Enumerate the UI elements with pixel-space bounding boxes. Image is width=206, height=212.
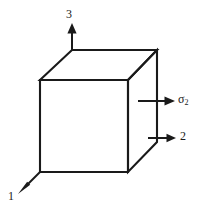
axis-1-arrowhead	[18, 182, 30, 194]
axis-3-label: 3	[66, 8, 72, 20]
axis-2-label: 2	[180, 130, 186, 142]
axis-sigma-2-label: σ2	[178, 93, 188, 105]
axis-1-arrow	[18, 172, 40, 194]
sigma-subscript: 2	[184, 98, 188, 107]
stress-cube-diagram: 3 1 2 σ2	[0, 0, 206, 212]
axis-3-arrow	[67, 23, 76, 50]
axis-2-arrowhead	[167, 134, 177, 142]
axis-1-label: 1	[8, 190, 14, 202]
axis-3-arrowhead	[67, 23, 76, 34]
cube-diagram-canvas	[0, 0, 206, 212]
cube-front-face	[40, 80, 128, 172]
axis-sigma-2-arrowhead	[165, 96, 176, 105]
